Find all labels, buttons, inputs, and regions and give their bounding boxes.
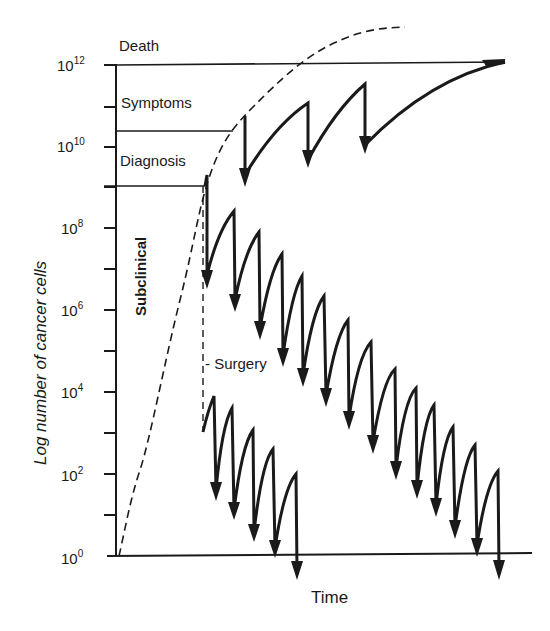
adjuvant-arrowheads (210, 482, 303, 580)
y-tick-label-2: 102 (61, 466, 83, 484)
x-axis (107, 553, 532, 556)
y-axis-label: Log number of cancer cells (31, 261, 51, 465)
palliative-treatment-series (245, 62, 505, 175)
death-label: Death (119, 37, 159, 54)
y-tick-label-0: 100 (61, 549, 83, 567)
symptoms-label: Symptoms (121, 94, 192, 111)
palliative-arrowheads (239, 59, 505, 187)
y-ticks (104, 65, 116, 515)
x-axis-label: Time (311, 588, 348, 608)
y-tick-label-10: 1010 (57, 137, 85, 155)
y-tick-label-6: 106 (61, 301, 83, 319)
subclinical-label: Subclinical (132, 237, 149, 316)
surgery-label: - Surgery (205, 355, 267, 372)
diagnosis-label: Diagnosis (120, 152, 186, 169)
y-tick-label-8: 108 (61, 219, 83, 237)
y-tick-label-4: 104 (61, 383, 83, 401)
y-tick-label-12: 1012 (57, 56, 85, 74)
death-threshold-line (116, 62, 505, 65)
chemotherapy-arrowheads (201, 270, 505, 580)
